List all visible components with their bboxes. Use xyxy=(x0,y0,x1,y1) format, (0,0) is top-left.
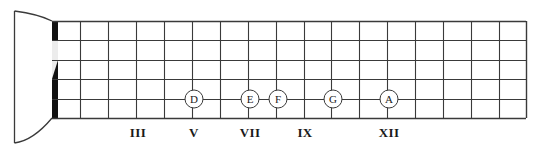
fret-number-label: III xyxy=(130,126,146,139)
string-lines-group xyxy=(52,22,526,119)
fretboard-graphic xyxy=(0,0,545,153)
fret-number-label: XII xyxy=(379,126,400,139)
fret-number-label: V xyxy=(189,126,199,139)
note-marker-label: G xyxy=(325,91,342,108)
note-marker-f: F xyxy=(269,90,288,109)
nut xyxy=(52,21,58,118)
note-marker-a: A xyxy=(380,90,399,109)
note-marker-d: D xyxy=(185,90,204,109)
headstock-outline xyxy=(15,11,53,143)
fret-lines-group xyxy=(81,21,527,118)
note-marker-label: E xyxy=(242,91,259,108)
note-marker-label: D xyxy=(186,91,203,108)
headstock-top-curve xyxy=(15,11,53,21)
fret-number-label: IX xyxy=(297,126,312,139)
note-marker-label: A xyxy=(381,91,398,108)
note-marker-label: F xyxy=(270,91,287,108)
fret-number-label: VII xyxy=(240,126,261,139)
note-marker-g: G xyxy=(324,90,343,109)
note-marker-e: E xyxy=(241,90,260,109)
fretboard-diagram: IIIVVIIIXXII DEFGA xyxy=(0,0,545,153)
headstock-bottom-curve xyxy=(15,118,53,143)
